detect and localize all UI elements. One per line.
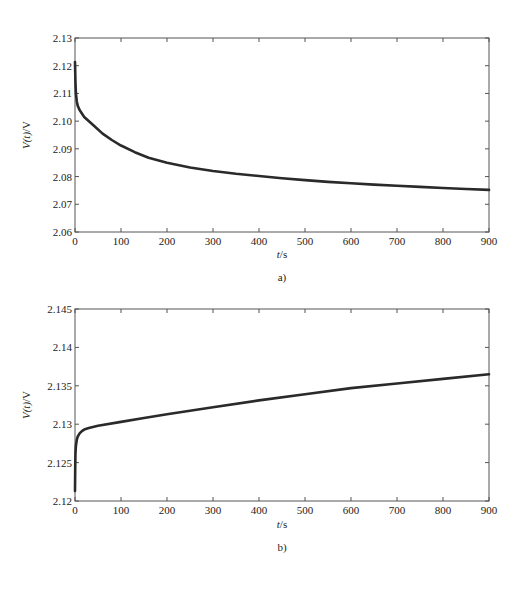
- x-tick-label: 100: [113, 235, 130, 247]
- x-tick-label: 0: [72, 235, 78, 247]
- x-tick-label: 400: [251, 235, 268, 247]
- y-tick-label: 2.125: [47, 457, 72, 469]
- x-tick-label: 0: [72, 504, 78, 516]
- x-tick-label: 500: [297, 235, 314, 247]
- x-tick-label: 700: [389, 504, 406, 516]
- y-axis-label: V(t)/V: [20, 121, 33, 149]
- figure: 01002003004005006007008009002.062.072.08…: [0, 0, 527, 591]
- y-tick-label: 2.13: [53, 418, 73, 430]
- y-tick-label: 2.08: [53, 171, 73, 183]
- y-tick-label: 2.13: [53, 32, 73, 44]
- x-tick-label: 600: [343, 504, 360, 516]
- x-tick-label: 300: [205, 235, 222, 247]
- y-tick-label: 2.11: [53, 87, 72, 99]
- y-tick-label: 2.07: [53, 198, 73, 210]
- y-axis-label: V(t)/V: [20, 391, 33, 419]
- x-tick-label: 100: [113, 504, 130, 516]
- x-tick-label: 600: [343, 235, 360, 247]
- y-tick-label: 2.06: [53, 226, 73, 238]
- y-axis-label-unit: /V: [20, 121, 32, 132]
- x-tick-label: 200: [159, 504, 176, 516]
- x-axis-label: t/s: [277, 248, 287, 260]
- x-tick-label: 900: [481, 235, 498, 247]
- x-tick-label: 800: [435, 504, 452, 516]
- chart-caption: b): [277, 541, 287, 554]
- data-line-b-0: [75, 374, 489, 491]
- y-axis-label-arg: (t): [20, 132, 33, 143]
- data-line-a-0: [75, 62, 489, 190]
- chart-caption: a): [278, 271, 287, 284]
- x-tick-label: 400: [251, 504, 268, 516]
- y-tick-label: 2.145: [47, 303, 72, 315]
- y-tick-label: 2.135: [47, 380, 72, 392]
- y-tick-label: 2.14: [53, 341, 73, 353]
- y-axis-label-unit: /V: [20, 391, 32, 402]
- x-tick-label: 300: [205, 504, 222, 516]
- x-tick-label: 800: [435, 235, 452, 247]
- y-tick-label: 2.09: [53, 143, 73, 155]
- x-axis-label-unit: /s: [280, 518, 287, 530]
- x-tick-label: 900: [481, 504, 498, 516]
- plot-area-frame: [75, 38, 489, 232]
- x-tick-label: 200: [159, 235, 176, 247]
- x-tick-label: 700: [389, 235, 406, 247]
- x-axis-label-unit: /s: [280, 248, 287, 260]
- y-tick-label: 2.10: [53, 115, 73, 127]
- y-tick-label: 2.12: [53, 60, 72, 72]
- plot-area-frame: [75, 309, 489, 501]
- chart-b: 01002003004005006007008009002.122.1252.1…: [20, 303, 498, 554]
- x-axis-label: t/s: [277, 518, 287, 530]
- y-tick-label: 2.12: [53, 495, 72, 507]
- x-tick-label: 500: [297, 504, 314, 516]
- y-axis-label-arg: (t): [20, 402, 33, 413]
- chart-a: 01002003004005006007008009002.062.072.08…: [20, 32, 498, 284]
